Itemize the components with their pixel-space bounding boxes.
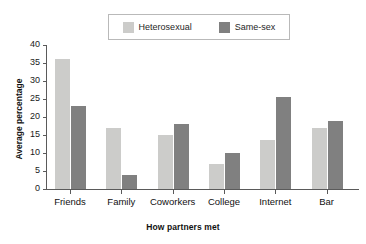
y-axis-title: Average percentage: [12, 60, 26, 180]
y-tick-label: 15: [30, 129, 40, 140]
bar: [276, 97, 291, 189]
bar-group: [47, 45, 98, 189]
y-tick-label: 5: [35, 165, 40, 176]
bar-chart-figure: Heterosexual Same-sex Average percentage…: [0, 0, 366, 244]
bar: [209, 164, 224, 189]
bar: [260, 140, 275, 189]
y-tick-label: 25: [30, 93, 40, 104]
x-tick-mark: [224, 190, 225, 194]
bar: [106, 128, 121, 189]
x-tick-mark: [173, 190, 174, 194]
y-tick-label: 30: [30, 75, 40, 86]
bar-group: [98, 45, 149, 189]
y-tick-label: 0: [35, 183, 40, 194]
bar-group: [252, 45, 303, 189]
chart-legend: Heterosexual Same-sex: [108, 14, 290, 40]
x-tick-mark: [275, 190, 276, 194]
legend-swatch-same-sex: [219, 22, 230, 33]
legend-swatch-heterosexual: [123, 22, 134, 33]
x-tick-label: Bar: [292, 196, 362, 208]
x-tick-mark: [121, 190, 122, 194]
bar-group: [150, 45, 201, 189]
legend-label-same-sex: Same-sex: [235, 22, 276, 32]
legend-entry-heterosexual: Heterosexual: [123, 22, 192, 33]
bar: [174, 124, 189, 189]
bar-group: [201, 45, 252, 189]
bar: [312, 128, 327, 189]
bars-layer: [47, 45, 355, 189]
bar: [55, 59, 70, 189]
bar-group: [304, 45, 355, 189]
x-tick-mark: [327, 190, 328, 194]
bar: [225, 153, 240, 189]
y-tick-label: 40: [30, 39, 40, 50]
y-tick-label: 35: [30, 57, 40, 68]
x-axis-ticks: FriendsFamilyCoworkersCollegeInternetBar: [47, 189, 355, 219]
legend-label-heterosexual: Heterosexual: [139, 22, 192, 32]
y-axis-title-label: Average percentage: [14, 54, 24, 184]
bar: [158, 135, 173, 189]
x-tick-mark: [70, 190, 71, 194]
bar: [328, 121, 343, 189]
y-tick-label: 20: [30, 111, 40, 122]
bar: [122, 175, 137, 189]
y-tick-label: 10: [30, 147, 40, 158]
bar: [71, 106, 86, 189]
legend-entry-same-sex: Same-sex: [219, 22, 276, 33]
x-axis-title-label: How partners met: [0, 222, 366, 232]
